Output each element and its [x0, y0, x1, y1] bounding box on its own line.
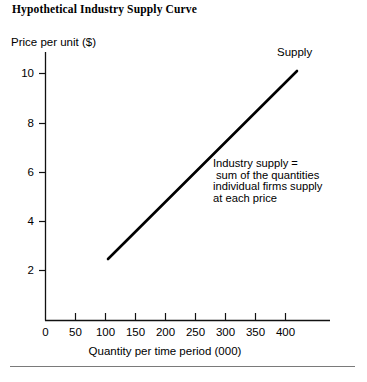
supply-series-label: Supply	[277, 46, 312, 58]
annotation-line-4: at each price	[213, 193, 322, 205]
x-tick-label-200: 200	[151, 326, 180, 338]
x-tick-label-350: 350	[241, 326, 270, 338]
y-tick-label-6: 6	[12, 166, 34, 178]
annotation-line-1: Industry supply =	[213, 158, 322, 170]
x-tick-label-100: 100	[91, 326, 120, 338]
x-tick-label-150: 150	[121, 326, 150, 338]
y-tick-label-4: 4	[12, 215, 34, 227]
y-tick-label-10: 10	[9, 67, 34, 79]
y-tick-label-2: 2	[12, 264, 34, 276]
x-tick-label-0: 0	[33, 326, 58, 338]
supply-definition-annotation: Industry supply = sum of the quantities …	[213, 158, 322, 204]
footer-divider	[10, 366, 355, 367]
supply-curve-figure: Hypothetical Industry Supply Curve Price…	[0, 0, 367, 382]
x-tick-label-400: 400	[271, 326, 300, 338]
x-tick-label-50: 50	[63, 326, 88, 338]
x-tick-label-250: 250	[181, 326, 210, 338]
y-tick-label-8: 8	[12, 117, 34, 129]
y-axis-ticks	[39, 74, 46, 271]
x-axis-ticks	[76, 313, 286, 320]
x-axis-label: Quantity per time period (000)	[0, 345, 330, 357]
x-tick-label-300: 300	[211, 326, 240, 338]
